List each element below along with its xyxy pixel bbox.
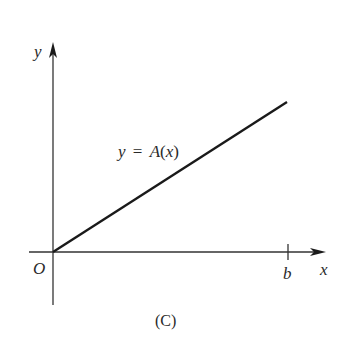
curve-label: y = A(x) xyxy=(116,142,179,161)
curve-label-eq: = xyxy=(133,142,143,161)
b-label: b xyxy=(283,264,292,283)
graph-figure: y x O b y = A(x) (C) xyxy=(0,0,339,361)
x-axis-label: x xyxy=(319,260,328,279)
curve-line xyxy=(53,102,287,252)
curve-label-A: A xyxy=(149,142,161,161)
curve-label-close: ) xyxy=(173,142,179,161)
curve-label-y: y xyxy=(116,142,126,161)
y-axis-label: y xyxy=(32,42,42,61)
origin-label: O xyxy=(33,259,45,278)
figure-caption: (C) xyxy=(155,312,176,330)
